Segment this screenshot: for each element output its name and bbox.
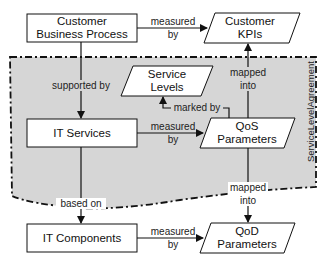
it-services-label: IT Services [27,119,137,147]
customer-business-process-label: Customer Business Process [27,14,137,42]
edge-label-cbp-ckpi: measured by [146,16,200,40]
qos-parameters-label: QoS Parameters [204,118,290,148]
edge-label-qos-sl: marked by [171,102,223,113]
edge-label-qos-ckpi: mapped into [228,67,268,91]
edge-label-qos-qod: mapped into [228,182,268,206]
it-components-label: IT Components [27,224,137,252]
edge-label-its-qos: measured by [146,121,200,145]
edge-label-itc-qod: measured by [146,226,200,250]
customer-kpis-label: Customer KPIs [207,13,293,43]
edge-label-cbp-its: supported by [46,80,116,91]
service-levels-label: Service Levels [125,66,209,96]
sla-region-label: ServiceLevelAgreement [305,61,316,162]
qod-parameters-label: QoD Parameters [204,223,290,253]
edge-label-its-itc: based on [56,198,106,209]
